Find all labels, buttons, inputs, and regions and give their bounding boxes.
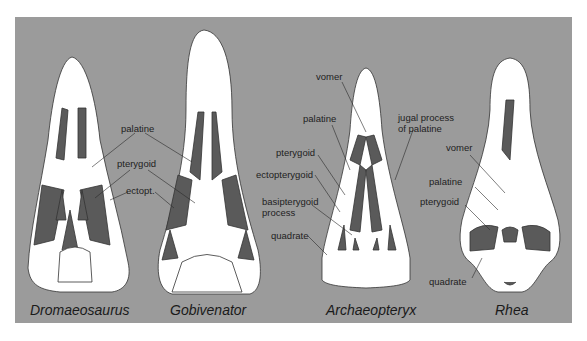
label-pterygoid-2: pterygoid <box>276 148 315 158</box>
label-vomer-3: vomer <box>446 143 472 153</box>
label-ectopt: ectopt. <box>126 186 155 196</box>
label-of-palatine: of palatine <box>398 124 442 134</box>
label-palatine-3: palatine <box>429 177 462 187</box>
label-process: process <box>262 208 295 218</box>
rhea-skull <box>460 58 560 292</box>
label-pterygoid-1: pterygoid <box>117 159 156 169</box>
label-jugal-process: jugal process <box>398 113 454 123</box>
label-quadrate-2: quadrate <box>271 231 309 241</box>
label-palatine-1: palatine <box>121 124 154 134</box>
label-vomer-2: vomer <box>316 72 342 82</box>
specimen-name-rhea: Rhea <box>495 302 528 318</box>
specimen-name-gobivenator: Gobivenator <box>170 302 246 318</box>
specimen-name-archaeopteryx: Archaeopteryx <box>326 302 416 318</box>
label-palatine-2: palatine <box>303 114 336 124</box>
label-basipterygoid: basipterygoid <box>262 197 319 207</box>
specimen-name-dromaeosaurus: Dromaeosaurus <box>30 302 130 318</box>
archaeopteryx-skull <box>322 68 410 288</box>
label-ectopterygoid: ectopterygoid <box>256 170 313 180</box>
label-pterygoid-3: pterygoid <box>420 197 459 207</box>
label-quadrate-3: quadrate <box>429 277 467 287</box>
